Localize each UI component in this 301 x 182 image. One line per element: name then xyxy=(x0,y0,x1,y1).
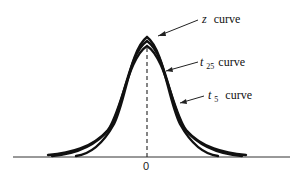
z-curve-label: z curve xyxy=(201,12,240,26)
t25-arrow xyxy=(166,62,198,72)
t5-curve-label: t 5 curve xyxy=(208,88,252,105)
density-curves-figure: z curve t 25 curve t 5 curve 0 xyxy=(0,0,301,182)
t5-arrow xyxy=(180,96,204,104)
t25-curve-label: t 25 curve xyxy=(200,55,245,72)
z-arrow xyxy=(158,20,198,36)
zero-tick-label: 0 xyxy=(143,160,149,172)
